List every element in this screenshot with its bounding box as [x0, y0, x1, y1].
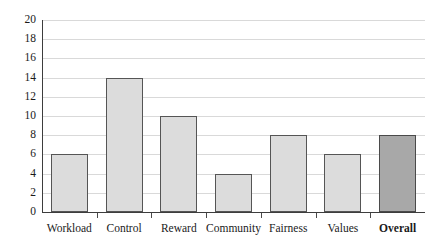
- x-tick-label-community: Community: [206, 222, 261, 235]
- bar-control: [106, 78, 143, 212]
- x-axis-line: [42, 212, 425, 213]
- y-tick-label-12: 12: [6, 91, 36, 103]
- x-tick-label-workload: Workload: [47, 222, 92, 235]
- x-tick-mark-2: [206, 213, 207, 218]
- bar-reward: [160, 116, 197, 212]
- y-tick-label-20: 20: [6, 14, 36, 26]
- y-tick-label-14: 14: [6, 72, 36, 84]
- y-axis-line: [42, 20, 43, 213]
- bar-overall: [379, 135, 416, 212]
- x-tick-label-values: Values: [328, 222, 359, 235]
- x-tick-mark-1: [151, 213, 152, 218]
- bar-chart: 02468101214161820 WorkloadControlRewardC…: [0, 0, 448, 248]
- y-tick-label-4: 4: [6, 168, 36, 180]
- y-tick-label-16: 16: [6, 52, 36, 64]
- bar-workload: [51, 154, 88, 212]
- bar-values: [324, 154, 361, 212]
- x-tick-mark-5: [370, 213, 371, 218]
- bars-layer: [42, 20, 425, 212]
- x-tick-label-fairness: Fairness: [269, 222, 307, 235]
- x-tick-label-control: Control: [106, 222, 141, 235]
- y-tick-label-18: 18: [6, 33, 36, 45]
- x-tick-label-overall: Overall: [379, 222, 416, 235]
- y-tick-label-0: 0: [6, 206, 36, 218]
- bar-fairness: [270, 135, 307, 212]
- x-tick-mark-3: [261, 213, 262, 218]
- x-tick-mark-4: [316, 213, 317, 218]
- y-tick-label-6: 6: [6, 148, 36, 160]
- x-tick-label-reward: Reward: [161, 222, 197, 235]
- x-tick-mark-0: [97, 213, 98, 218]
- y-tick-label-8: 8: [6, 129, 36, 141]
- y-tick-label-10: 10: [6, 110, 36, 122]
- y-tick-label-2: 2: [6, 187, 36, 199]
- bar-community: [215, 174, 252, 212]
